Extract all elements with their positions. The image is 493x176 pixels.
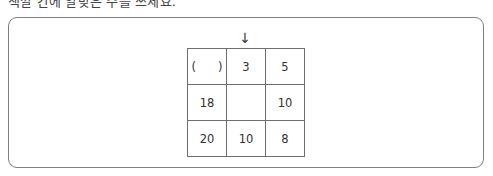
down-arrow-icon: ↓ <box>239 29 251 47</box>
grid-cell: 20 <box>188 121 227 157</box>
grid-cell-empty <box>227 85 266 121</box>
grid-row: 20 10 8 <box>188 121 305 157</box>
grid-row: () 3 5 <box>188 49 305 85</box>
grid-cell: 3 <box>227 49 266 85</box>
number-grid: () 3 5 18 10 20 10 8 <box>187 48 305 157</box>
answer-blank-cell[interactable]: () <box>188 49 227 85</box>
question-text-cutoff: 색깔 칸에 알맞은 수를 쓰세요. <box>8 0 176 10</box>
grid-row: 18 10 <box>188 85 305 121</box>
open-paren: ( <box>192 60 197 74</box>
grid-cell: 5 <box>266 49 305 85</box>
grid-cell: 18 <box>188 85 227 121</box>
grid-cell: 10 <box>266 85 305 121</box>
close-paren: ) <box>218 60 223 74</box>
grid-cell: 10 <box>227 121 266 157</box>
grid-cell: 8 <box>266 121 305 157</box>
